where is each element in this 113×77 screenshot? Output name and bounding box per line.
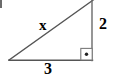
edge-scan-artifact	[0, 0, 2, 8]
right-triangle-figure: x 2 3	[0, 0, 113, 77]
triangle-graphic	[0, 0, 113, 77]
vertical-leg-label: 2	[99, 16, 107, 32]
hypotenuse-label: x	[39, 18, 47, 33]
right-angle-dot-icon	[85, 53, 88, 56]
base-label: 3	[44, 61, 52, 77]
